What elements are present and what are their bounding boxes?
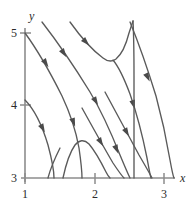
slope-field-figure: 5 4 3 1 2 3 y x — [0, 0, 195, 206]
direction-arrow-icon — [96, 137, 106, 148]
solution-curve — [133, 21, 134, 178]
plot-canvas — [0, 0, 195, 206]
solution-curve — [70, 21, 133, 61]
solution-curve — [113, 60, 151, 178]
solution-curve — [130, 22, 174, 178]
y-tick-label-5: 5 — [3, 27, 17, 39]
direction-arrow-icon — [122, 127, 131, 138]
y-tick-label-3: 3 — [3, 172, 17, 184]
solution-curve — [25, 100, 54, 178]
x-tick-label-1: 1 — [18, 188, 32, 200]
direction-arrow-icon — [91, 96, 101, 107]
direction-arrow-icon — [38, 123, 47, 134]
y-axis-label: y — [29, 10, 34, 22]
x-axis-label: x — [180, 172, 185, 184]
solution-curves-group — [25, 21, 174, 178]
solution-curve — [25, 33, 82, 178]
y-tick-label-4: 4 — [3, 99, 17, 111]
x-tick-label-3: 3 — [157, 188, 171, 200]
x-tick-label-2: 2 — [88, 188, 102, 200]
solution-curve — [42, 22, 130, 178]
